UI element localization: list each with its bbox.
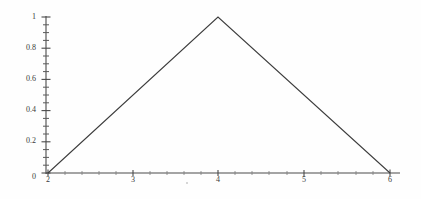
x-tick-label-5: 5 [297, 176, 311, 184]
y-tick-label-0-6: 0.6 [16, 75, 36, 83]
y-tick-label-1: 1 [20, 13, 36, 21]
data-series-triangular-function [48, 17, 390, 173]
y-tick-label-0-4: 0.4 [16, 106, 36, 114]
y-tick-label-0-2: 0.2 [16, 137, 36, 145]
x-tick-label-3: 3 [126, 176, 140, 184]
plot-canvas [0, 0, 421, 199]
chart-figure: 1 0.8 0.6 0.4 0.2 0 2 3 4 5 6 [0, 0, 421, 199]
y-tick-label-0-8: 0.8 [16, 44, 36, 52]
x-tick-label-2: 2 [41, 176, 55, 184]
x-tick-label-4: 4 [211, 176, 225, 184]
x-tick-label-6: 6 [383, 176, 397, 184]
y-tick-label-0: 0 [20, 173, 36, 181]
scan-artifact-speck [186, 182, 188, 184]
